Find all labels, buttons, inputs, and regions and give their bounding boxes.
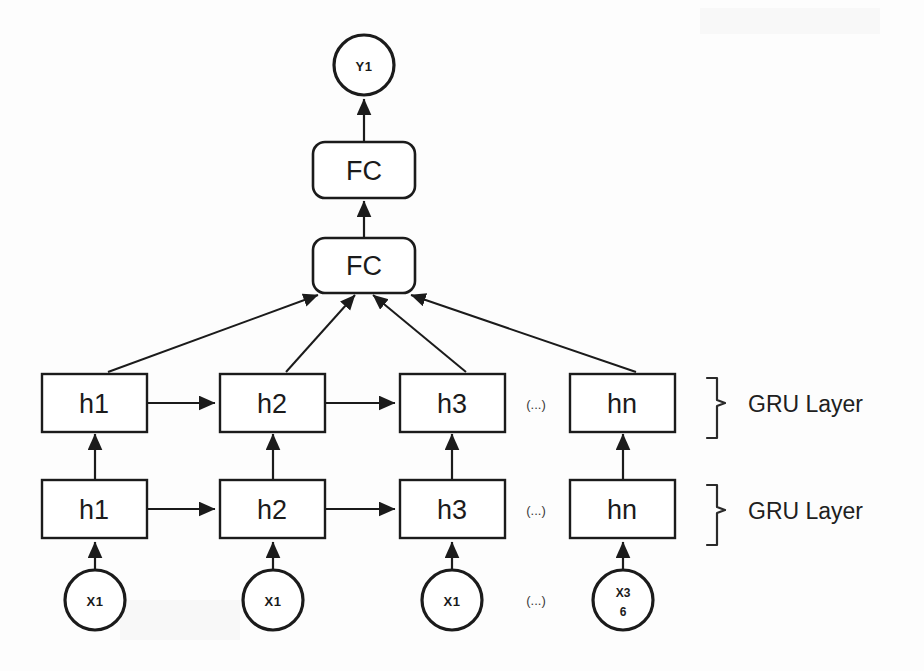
input-node-n-label-line2: 6: [620, 605, 627, 619]
gru-lower-cell-h3-label: h3: [437, 495, 467, 525]
output-node-label: Y1: [356, 59, 373, 74]
gru-lower-cell-h2-label: h2: [257, 495, 287, 525]
edge-gru-upper-h2-to-fc-lower: [286, 295, 355, 372]
diagram-canvas: Y1 FC FC h1 h2 h3 hn (...) h1 h2 h3 hn (…: [0, 0, 924, 671]
gru-upper-cell-h3-label: h3: [437, 389, 467, 419]
gru-lower-brace: [707, 485, 725, 545]
gru-lower-cell-hn-label: hn: [607, 495, 637, 525]
gru-lower-layer-label: GRU Layer: [748, 498, 863, 524]
network-diagram: Y1 FC FC h1 h2 h3 hn (...) h1 h2 h3 hn (…: [0, 0, 924, 671]
gru-upper-cell-h2-label: h2: [257, 389, 287, 419]
gru-upper-layer-label: GRU Layer: [748, 391, 863, 417]
gru-lower-ellipsis: (...): [526, 503, 546, 518]
gru-upper-ellipsis: (...): [526, 397, 546, 412]
fc-upper-label: FC: [346, 156, 382, 186]
edge-gru-upper-h3-to-fc-lower: [373, 295, 466, 372]
input-node-3-label: X1: [444, 594, 461, 609]
gru-lower-cell-h1-label: h1: [79, 495, 109, 525]
input-node-n-circle[interactable]: [593, 570, 653, 630]
edge-gru-upper-h1-to-fc-lower: [108, 295, 318, 372]
input-node-1-label: X1: [87, 594, 104, 609]
gru-upper-cell-hn-label: hn: [607, 389, 637, 419]
fc-lower-label: FC: [346, 251, 382, 281]
input-node-n-label-line1: X3: [616, 586, 631, 600]
gru-upper-cell-h1-label: h1: [79, 389, 109, 419]
input-row-ellipsis: (...): [526, 593, 546, 608]
edge-gru-upper-hn-to-fc-lower: [411, 295, 636, 372]
input-node-2-label: X1: [265, 594, 282, 609]
gru-upper-brace: [707, 378, 725, 438]
